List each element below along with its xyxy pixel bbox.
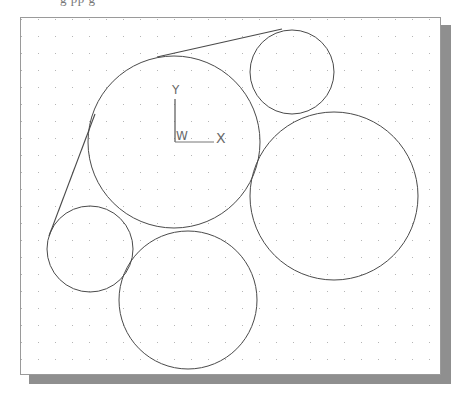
right-large-circle[interactable]	[250, 112, 418, 280]
ucs-y-label: Y	[171, 83, 180, 97]
top-right-small-circle[interactable]	[250, 30, 334, 114]
drawing-canvas[interactable]: Y W X	[0, 0, 464, 396]
left-tangent-line[interactable]	[49, 114, 95, 236]
ucs-w-label: W	[176, 129, 188, 143]
grid-dots	[21, 19, 430, 360]
ucs-icon: Y W X	[171, 83, 226, 146]
top-tangent-line[interactable]	[157, 29, 282, 57]
drawing-entities	[47, 29, 418, 369]
ucs-x-label: X	[216, 130, 226, 146]
bottom-circle[interactable]	[119, 231, 257, 369]
left-small-circle[interactable]	[47, 206, 133, 292]
large-center-circle[interactable]	[88, 56, 260, 228]
